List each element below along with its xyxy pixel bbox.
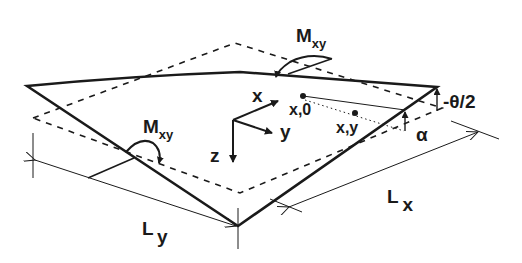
point-xy-label: x,y: [336, 119, 358, 136]
rotation-corner-label: -θ/2: [443, 91, 475, 112]
dimension-lx-label: Lx: [387, 186, 414, 215]
axis-x-label: x: [252, 85, 263, 106]
axis-y-label: y: [280, 121, 291, 142]
moment-left-label: Mxy: [143, 116, 174, 142]
axis-z-label: z: [210, 145, 220, 166]
moment-top-label: Mxy: [296, 25, 327, 51]
y-axis-arrow: [233, 120, 272, 133]
line-x0-to-edge: [303, 96, 405, 110]
coordinate-axes: [233, 101, 278, 162]
angle-alpha-label: α: [416, 124, 428, 145]
dimension-ly: [33, 133, 238, 249]
dimension-lx: [270, 121, 499, 212]
twisted-plate-diagram: x y z x,0 x,y -θ/2 α Mxy Mxy Ly Lx: [0, 0, 522, 263]
point-x0-label: x,0: [289, 101, 311, 118]
dimension-ly-label: Ly: [142, 218, 168, 247]
